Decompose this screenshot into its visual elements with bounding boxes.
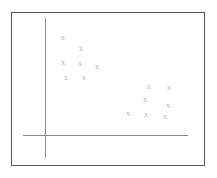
scatter-marker: x	[167, 83, 172, 92]
scatter-marker: x	[61, 58, 66, 67]
scatter-marker: x	[79, 44, 84, 53]
scatter-marker: x	[166, 101, 171, 110]
scatter-marker: x	[78, 59, 83, 68]
scatter-marker: x	[61, 33, 66, 42]
y-axis-line	[45, 18, 46, 157]
scatter-marker: x	[147, 82, 152, 91]
scatter-marker: x	[143, 95, 148, 104]
scatter-marker: x	[95, 62, 100, 71]
scatter-marker: x	[163, 112, 168, 121]
x-axis-line	[23, 135, 188, 136]
scatter-plot-canvas: xxxxxxxxxxxxxx	[0, 0, 217, 178]
scatter-marker: x	[64, 73, 69, 82]
scatter-marker: x	[126, 109, 131, 118]
scatter-marker: x	[82, 73, 87, 82]
scatter-marker: x	[144, 110, 149, 119]
